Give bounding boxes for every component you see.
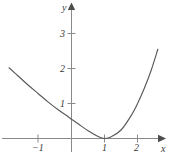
y-tick-label-1: 1 xyxy=(60,99,65,109)
y-axis-label: y xyxy=(62,3,66,13)
y-tick-label-2: 2 xyxy=(60,64,65,74)
y-tick-label-3: 3 xyxy=(60,29,65,39)
x-tick-label--1: −1 xyxy=(32,143,44,153)
function-curve xyxy=(9,49,158,138)
y-axis-arrow-icon xyxy=(68,3,75,11)
x-axis-arrow-icon xyxy=(158,135,166,142)
x-tick-label-2: 2 xyxy=(134,143,139,153)
x-tick-label-1: 1 xyxy=(102,143,107,153)
x-axis-label: x xyxy=(161,144,165,154)
plot-canvas xyxy=(0,0,171,161)
graph-figure: −1 1 2 1 2 3 y x xyxy=(0,0,171,161)
